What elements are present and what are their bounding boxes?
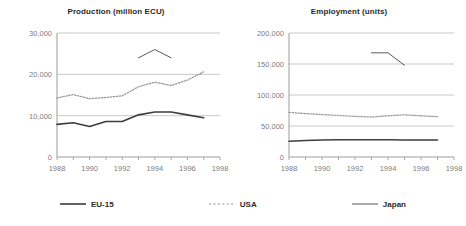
x-tick-label: 1996 <box>179 164 196 173</box>
corner-artifact <box>2 218 4 224</box>
legend-label: USA <box>240 200 257 209</box>
x-tick-label: 1988 <box>281 164 298 173</box>
legend-label: Japan <box>383 200 406 209</box>
legend-item-eu-15[interactable]: EU-15 <box>60 200 114 209</box>
legend-item-usa[interactable]: USA <box>209 200 257 209</box>
series-line-japan <box>372 53 405 65</box>
x-tick-label: 1994 <box>380 164 397 173</box>
x-tick-label: 1998 <box>446 164 463 173</box>
legend-items: EU-15USAJapan <box>60 194 406 214</box>
x-tick-label: 1992 <box>114 164 131 173</box>
x-tick-label: 1996 <box>413 164 430 173</box>
legend-label: EU-15 <box>91 200 114 209</box>
chart-panel-employment: Employment (units) 050,000100,000150,000… <box>232 0 466 186</box>
x-tick-label: 1988 <box>49 164 66 173</box>
series-line-japan <box>139 50 172 58</box>
y-tick-label: 30,000 <box>0 29 52 38</box>
y-tick-label: 0 <box>232 153 284 162</box>
legend-item-japan[interactable]: Japan <box>352 200 406 209</box>
line-swatch-thin-icon <box>352 200 378 208</box>
line-swatch-solid-icon <box>60 200 86 208</box>
x-tick-label: 1990 <box>314 164 331 173</box>
y-tick-label: 50,000 <box>232 122 284 131</box>
series-line-usa <box>57 72 204 99</box>
y-tick-label: 200,000 <box>232 29 284 38</box>
x-tick-label: 1998 <box>212 164 229 173</box>
series-line-usa <box>289 112 438 117</box>
chart-panel-production: Production (million ECU) 010,00020,00030… <box>0 0 232 186</box>
plot-area-employment: 050,000100,000150,000200,000198819901992… <box>232 0 466 186</box>
line-swatch-dotted-icon <box>209 200 235 208</box>
series-line-eu-15 <box>289 140 438 141</box>
x-tick-label: 1990 <box>81 164 98 173</box>
x-tick-label: 1992 <box>347 164 364 173</box>
y-tick-label: 150,000 <box>232 60 284 69</box>
y-tick-label: 10,000 <box>0 111 52 120</box>
y-tick-label: 20,000 <box>0 70 52 79</box>
x-tick-label: 1994 <box>146 164 163 173</box>
series-line-eu-15 <box>57 112 204 126</box>
chart-legend: EU-15USAJapan <box>0 186 466 226</box>
chart-page: Production (million ECU) 010,00020,00030… <box>0 0 466 226</box>
plot-area-production: 010,00020,00030,000198819901992199419961… <box>0 0 232 186</box>
y-tick-label: 0 <box>0 153 52 162</box>
y-tick-label: 100,000 <box>232 91 284 100</box>
charts-row: Production (million ECU) 010,00020,00030… <box>0 0 466 186</box>
